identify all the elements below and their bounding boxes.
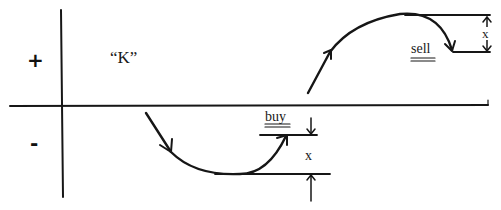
vertical-axis	[61, 10, 63, 197]
positive-label: +	[27, 48, 44, 72]
buy-gap-label: x	[305, 148, 312, 163]
sell-label: sell	[411, 41, 431, 56]
negative-label: -	[30, 131, 38, 155]
k-curve-diagram: + - “K” buy x sell x	[0, 0, 501, 210]
k-label: “K”	[110, 48, 137, 67]
buy-label: buy	[265, 109, 286, 124]
horizontal-axis	[10, 105, 488, 106]
sell-gap-label: x	[482, 26, 489, 41]
